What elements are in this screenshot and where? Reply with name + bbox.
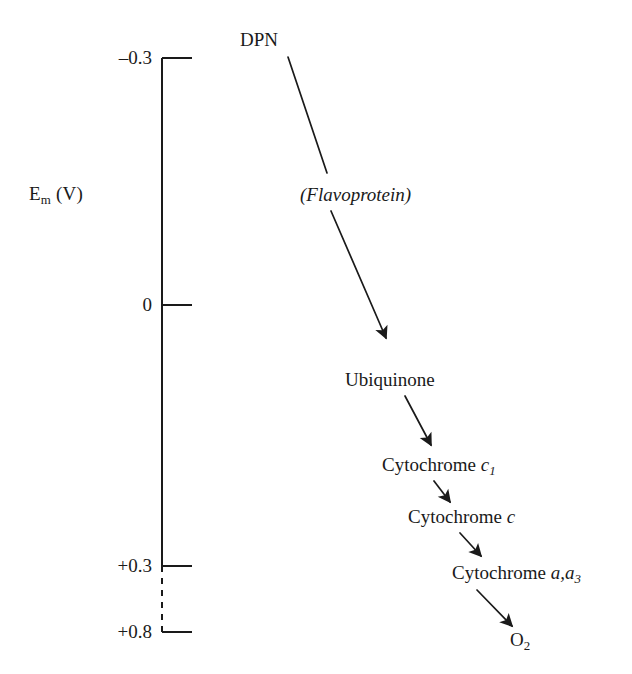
oxygen-symbol: O (510, 629, 524, 650)
cytochrome-aa3-symbol-a: a (551, 562, 561, 583)
node-label-cytochrome-c1: Cytochrome c1 (382, 455, 496, 478)
oxygen-subscript: 2 (524, 638, 530, 653)
tick-label-pos0-8: +0.8 (58, 621, 152, 643)
node-label-cytochrome-c: Cytochrome c (408, 507, 515, 526)
tick-label-pos0-3: +0.3 (58, 555, 152, 577)
node-label-flavoprotein: (Flavoprotein) (300, 185, 411, 204)
tick-label-0: 0 (58, 294, 152, 316)
tick-label-neg0-3: –0.3 (58, 47, 152, 69)
node-label-oxygen: O2 (510, 630, 530, 653)
axis-title-units: (V) (51, 183, 83, 204)
cytochrome-c-symbol: c (507, 506, 515, 527)
cytochrome-aa3-subscript: 3 (574, 571, 580, 586)
cytochrome-aa3-symbol-a2: a (565, 562, 575, 583)
redox-potential-diagram: Em (V) –0.3 0 +0.3 +0.8 DPN (Flavoprotei… (0, 0, 632, 674)
axis-title-subscript: m (41, 192, 51, 207)
cytochrome-c-prefix: Cytochrome (408, 506, 507, 527)
cytochrome-c1-symbol: c (481, 454, 489, 475)
axis-title: Em (V) (29, 183, 83, 208)
node-label-cytochrome-aa3: Cytochrome a,a3 (452, 563, 581, 586)
node-label-dpn: DPN (240, 30, 278, 49)
cytochrome-c1-subscript: 1 (489, 463, 495, 478)
node-label-ubiquinone: Ubiquinone (345, 370, 435, 389)
axis-title-symbol: E (29, 183, 41, 204)
cytochrome-aa3-prefix: Cytochrome (452, 562, 551, 583)
cytochrome-c1-prefix: Cytochrome (382, 454, 481, 475)
